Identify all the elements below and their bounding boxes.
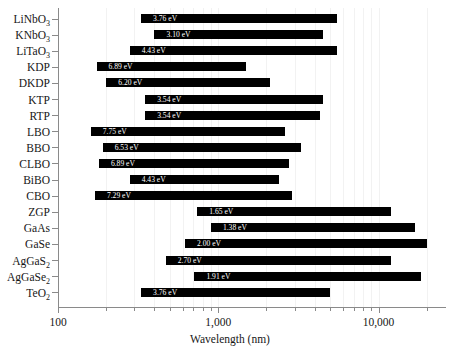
y-tick — [52, 163, 58, 164]
x-tick-minor — [427, 308, 428, 311]
x-tick-minor — [363, 308, 364, 311]
y-axis-label-AgGaSe2: AgGaSe2 — [0, 271, 50, 288]
y-tick — [52, 51, 58, 52]
y-axis-label-KNbO3: KNbO3 — [0, 29, 50, 46]
y-axis-line — [58, 8, 59, 308]
bar-energy-label-KTP: 3.54 eV — [157, 95, 181, 104]
y-tick — [52, 19, 58, 20]
y-tick — [52, 83, 58, 84]
x-tick-minor — [203, 308, 204, 311]
bar-energy-label-TeO2: 3.76 eV — [153, 288, 177, 297]
bar-energy-label-GaSe: 2.00 eV — [197, 239, 221, 248]
x-axis-line — [58, 307, 446, 308]
y-tick — [52, 67, 58, 68]
y-axis-label-AgGaS2: AgGaS2 — [0, 255, 50, 272]
x-tick-label-100: 100 — [18, 316, 98, 329]
x-tick-minor — [193, 308, 194, 311]
x-tick-minor — [134, 308, 135, 311]
y-tick — [52, 131, 58, 132]
bar-energy-label-DKDP: 6.20 eV — [118, 78, 142, 87]
bar-energy-label-AgGaSe2: 1.91 eV — [206, 272, 230, 281]
wavelength-transparency-chart: LiNbO3KNbO3LiTaO3KDPDKDPKTPRTPLBOBBOCLBO… — [0, 0, 460, 361]
x-tick-minor — [295, 308, 296, 311]
y-axis-label-KDP: KDP — [0, 61, 50, 73]
y-tick — [52, 244, 58, 245]
x-tick-minor — [211, 308, 212, 311]
y-axis-label-BiBO: BiBO — [0, 174, 50, 186]
y-tick — [52, 99, 58, 100]
y-tick — [52, 180, 58, 181]
x-tick-minor — [106, 308, 107, 311]
x-tick-minor — [266, 308, 267, 311]
y-axis-label-BBO: BBO — [0, 142, 50, 154]
x-tick-minor — [330, 308, 331, 311]
x-tick-label-10000: 10,000 — [339, 316, 419, 329]
y-tick — [52, 292, 58, 293]
y-tick — [52, 276, 58, 277]
y-tick — [52, 228, 58, 229]
bar-energy-label-BBO: 6.53 eV — [115, 143, 139, 152]
bar-GaSe — [185, 239, 427, 248]
bar-energy-label-ZGP: 1.65 eV — [209, 207, 233, 216]
x-tick-minor — [315, 308, 316, 311]
y-tick — [52, 35, 58, 36]
y-tick — [52, 196, 58, 197]
y-axis-label-DKDP: DKDP — [0, 77, 50, 89]
y-axis-label-LiTaO3: LiTaO3 — [0, 45, 50, 62]
y-axis-label-TeO2: TeO2 — [0, 287, 50, 304]
bar-energy-label-RTP: 3.54 eV — [157, 111, 181, 120]
bar-energy-label-LiNbO3: 3.76 eV — [153, 14, 177, 23]
bar-energy-label-KNbO3: 3.10 eV — [166, 30, 190, 39]
x-tick-minor — [170, 308, 171, 311]
y-tick — [52, 115, 58, 116]
bar-energy-label-CBO: 7.29 eV — [107, 191, 131, 200]
x-tick-label-1000: 1,000 — [178, 316, 258, 329]
x-tick-major — [218, 308, 219, 313]
x-tick-minor — [183, 308, 184, 311]
x-tick-major — [379, 308, 380, 313]
y-tick — [52, 212, 58, 213]
bar-energy-label-BiBO: 4.43 eV — [142, 175, 166, 184]
y-axis-label-LBO: LBO — [0, 126, 50, 138]
y-axis-label-GaAs: GaAs — [0, 222, 50, 234]
x-tick-minor — [371, 308, 372, 311]
bar-energy-label-LiTaO3: 4.43 eV — [142, 46, 166, 55]
x-tick-minor — [354, 308, 355, 311]
x-tick-major — [58, 308, 59, 313]
bar-energy-label-GaAs: 1.38 eV — [223, 223, 247, 232]
bar-energy-label-AgGaS2: 2.70 eV — [178, 256, 202, 265]
bar-energy-label-KDP: 6.89 eV — [109, 62, 133, 71]
y-axis-label-ZGP: ZGP — [0, 206, 50, 218]
bar-energy-label-CLBO: 6.89 eV — [111, 159, 135, 168]
y-axis-label-RTP: RTP — [0, 110, 50, 122]
y-axis-label-LiNbO3: LiNbO3 — [0, 13, 50, 30]
y-tick — [52, 260, 58, 261]
x-tick-minor — [343, 308, 344, 311]
y-axis-label-GaSe: GaSe — [0, 238, 50, 250]
x-axis-title: Wavelength (nm) — [0, 333, 460, 345]
y-axis-label-CLBO: CLBO — [0, 158, 50, 170]
y-axis-label-CBO: CBO — [0, 190, 50, 202]
y-axis-label-KTP: KTP — [0, 94, 50, 106]
y-tick — [52, 147, 58, 148]
bar-energy-label-LBO: 7.75 eV — [103, 127, 127, 136]
x-tick-minor — [154, 308, 155, 311]
